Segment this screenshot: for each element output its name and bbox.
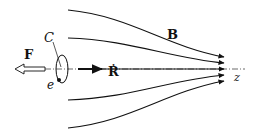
- magnetic-field-diagram: F C e Ṙ B z: [0, 0, 257, 138]
- field-line: [68, 81, 224, 128]
- field-line: [68, 10, 224, 57]
- velocity-label: Ṙ: [108, 64, 119, 79]
- charge-dot: [57, 78, 61, 82]
- force-label: F: [24, 47, 34, 62]
- charge-label: e: [47, 78, 54, 92]
- loop-label: C: [44, 30, 54, 45]
- field-line: [68, 38, 224, 63]
- force-arrow-icon: [15, 64, 45, 74]
- field-line: [68, 75, 224, 100]
- axis-label: z: [233, 71, 240, 84]
- field-label: B: [167, 27, 178, 42]
